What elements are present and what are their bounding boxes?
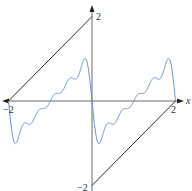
- x-tick-neg: −2: [3, 105, 14, 115]
- x-axis-arrow-right-icon: [177, 99, 184, 104]
- y-tick-pos: 2: [96, 12, 101, 22]
- y-axis-arrow-up-icon: [90, 5, 95, 12]
- chart: x −2 2 2 −2: [0, 0, 192, 191]
- plot-area: [0, 0, 192, 191]
- x-axis-label: x: [186, 96, 190, 106]
- x-axis-arrow-left-icon: [2, 99, 9, 104]
- y-tick-neg: −2: [77, 183, 88, 191]
- x-tick-pos: 2: [171, 105, 176, 115]
